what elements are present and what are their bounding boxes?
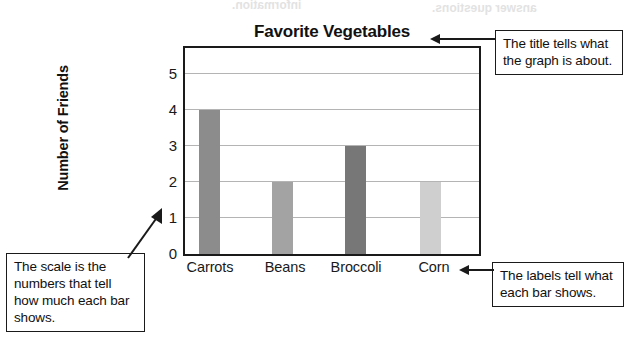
bar-carrots — [199, 110, 220, 254]
bar-corn — [420, 182, 441, 254]
chart-title: Favorite Vegetables — [183, 22, 481, 42]
y-tick-2: 2 — [151, 173, 177, 190]
scan-bleed-text-mid: information. — [232, 0, 301, 12]
x-label-broccoli: Broccoli — [311, 259, 401, 275]
y-tick-4: 4 — [151, 101, 177, 118]
plot-area — [185, 48, 479, 254]
callout-scale-note: The scale is the numbers that tell how m… — [6, 253, 145, 332]
y-tick-1: 1 — [151, 209, 177, 226]
callout-labels-note: The labels tell what each bar shows. — [492, 262, 624, 307]
bar-broccoli — [345, 146, 366, 254]
chart-plot-frame — [183, 46, 481, 256]
gridline-3 — [185, 145, 479, 146]
worksheet-page: answer questions. information. Favorite … — [0, 0, 624, 337]
callout-title-note: The title tells what the graph is about. — [495, 30, 623, 75]
y-tick-5: 5 — [151, 65, 177, 82]
bar-beans — [272, 182, 293, 254]
x-label-corn: Corn — [389, 259, 479, 275]
scan-bleed-text-top: answer questions. — [432, 1, 537, 15]
y-tick-3: 3 — [151, 137, 177, 154]
y-axis-title: Number of Friends — [55, 48, 71, 208]
gridline-5 — [185, 73, 479, 74]
gridline-4 — [185, 109, 479, 110]
